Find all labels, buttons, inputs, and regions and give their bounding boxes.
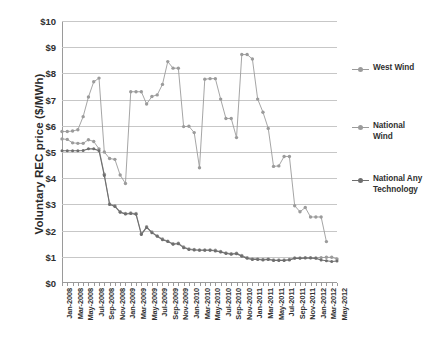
data-point [177,66,180,69]
x-axis-tick-label: Nov-2008 [118,288,127,320]
data-point [155,93,158,96]
data-point [245,53,248,56]
x-axis-tick-label: Mar-2008 [76,288,85,319]
data-point [209,249,212,252]
data-point [81,142,84,145]
x-axis-tick-label: Sep-2010 [234,288,243,320]
x-axis-tick-label: Nov-2011 [308,288,317,320]
x-axis-tick [268,283,269,286]
x-axis-tick [337,283,338,286]
x-axis-tick-label: May-2008 [86,288,95,320]
data-point [187,248,190,251]
data-point [240,53,243,56]
data-point [298,210,301,213]
x-axis-tick [110,283,111,286]
x-axis-tick [221,283,222,286]
data-point [166,240,169,243]
data-point [208,77,211,80]
data-point [60,130,63,133]
x-axis-tick [162,283,163,286]
x-axis-tick [215,283,216,286]
legend-key-icon [352,65,369,74]
x-axis-tick [237,283,238,286]
data-point [71,149,74,152]
x-axis-tick [62,283,63,286]
data-point [272,165,275,168]
data-point [261,258,264,261]
data-point [71,141,74,144]
legend-item-national-wind[interactable]: National Wind [352,121,412,142]
data-point [256,97,259,100]
data-point [92,140,95,143]
data-point [177,242,180,245]
x-axis-tick [300,283,301,286]
x-axis-tick [326,283,327,286]
data-point [298,257,301,260]
data-point [214,77,217,80]
data-point [140,90,143,93]
x-axis-tick-label: Jul-2008 [97,288,106,317]
rec-price-chart: Voluntary REC price ($/MWh) $0$1$2$3$4$5… [0,0,438,340]
data-point [166,60,169,63]
data-point [103,174,106,177]
x-axis-tick-label: Mar-2011 [266,288,275,319]
data-point [203,77,206,80]
x-axis-tick [247,283,248,286]
x-axis-tick [321,283,322,286]
x-axis-tick [115,283,116,286]
data-point [66,138,69,141]
data-point [161,83,164,86]
x-axis-tick-label: Jul-2010 [224,288,233,317]
y-axis-tick-label: $10 [40,16,56,27]
y-axis-tick-label: $7 [45,94,56,105]
x-axis-tick [332,283,333,286]
data-point [256,258,259,261]
x-axis-tick-label: Jan-2011 [255,288,264,318]
x-axis-tick-label: May-2011 [277,288,286,320]
legend-item-west-wind[interactable]: West Wind [352,63,414,74]
data-point [182,246,185,249]
data-point [161,238,164,241]
data-point [235,252,238,255]
data-point [267,258,270,261]
data-point [76,149,79,152]
x-axis-tick [205,283,206,286]
data-point [272,259,275,262]
data-point [224,252,227,255]
legend-item-national-any-technology[interactable]: National Any Technology [352,174,438,195]
data-point [150,231,153,234]
series-layer [62,21,337,283]
data-point [103,150,106,153]
data-point [66,130,69,133]
x-axis-tick-label: Sep-2009 [171,288,180,320]
data-point [203,249,206,252]
data-point [187,125,190,128]
data-point [293,257,296,260]
x-axis-tick [274,283,275,286]
data-point [87,138,90,141]
data-point [240,255,243,258]
data-point [319,215,322,218]
y-axis-tick-label: $9 [45,42,56,53]
x-axis-tick [189,283,190,286]
data-point [251,258,254,261]
data-point [124,213,127,216]
series-national-wind [60,137,338,261]
x-axis-tick-label: Nov-2009 [181,288,190,320]
data-point [277,259,280,262]
x-axis-tick [78,283,79,286]
data-point [171,66,174,69]
x-axis-tick [184,283,185,286]
data-point [288,258,291,261]
data-point [309,215,312,218]
x-axis-tick [200,283,201,286]
x-axis-tick [136,283,137,286]
data-point [108,203,111,206]
x-axis-tick [279,283,280,286]
data-point [314,257,317,260]
data-point [98,149,101,152]
data-point [198,249,201,252]
x-axis-tick [295,283,296,286]
data-point [108,157,111,160]
data-point [92,80,95,83]
